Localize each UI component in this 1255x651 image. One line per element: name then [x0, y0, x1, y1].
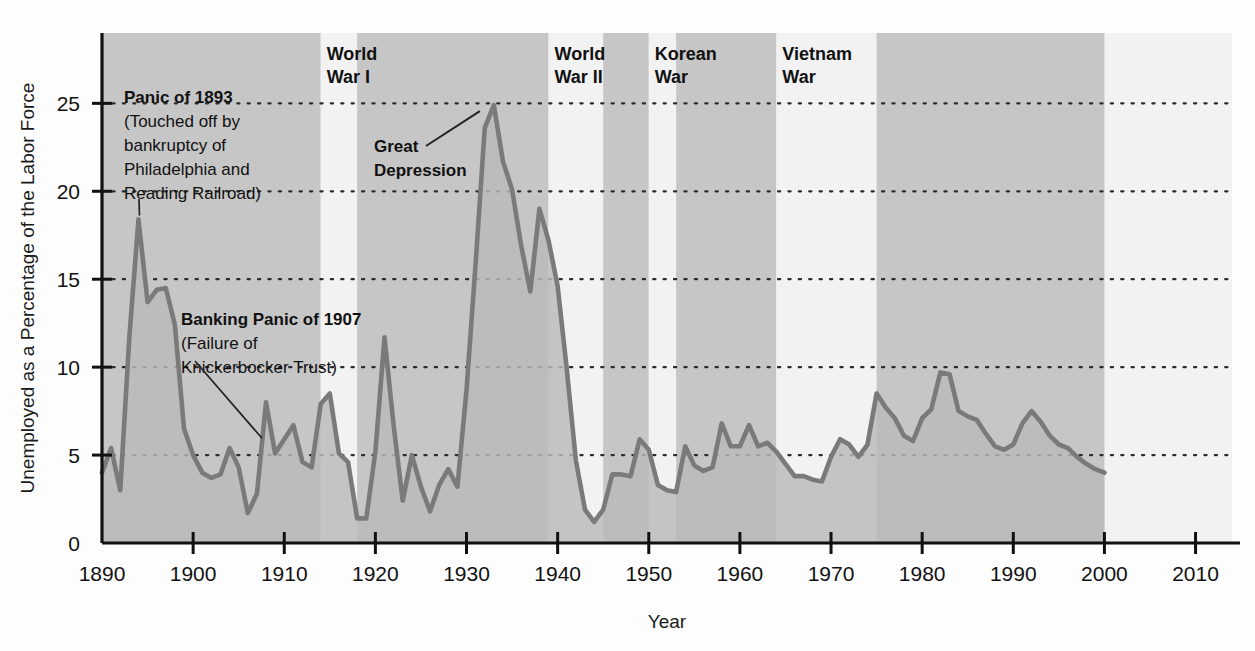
war-label-line1-3: Vietnam: [782, 44, 852, 64]
annotation-line-panic-1893-0: (Touched off by: [124, 112, 240, 131]
y-axis-title: Unemployed as a Percentage of the Labor …: [17, 83, 38, 494]
x-tick-label-1990: 1990: [990, 562, 1037, 585]
x-tick-label-1950: 1950: [625, 562, 672, 585]
annotation-title-panic-1893: Panic of 1893: [124, 88, 233, 107]
x-tick-label-1920: 1920: [352, 562, 399, 585]
war-label-line1-2: Korean: [655, 44, 717, 64]
war-label-line1-1: World: [555, 44, 606, 64]
war-label-line2-3: War: [782, 67, 815, 87]
annotation-title-banking-panic-1907: Banking Panic of 1907: [181, 310, 361, 329]
x-tick-label-1960: 1960: [717, 562, 764, 585]
y-tick-label-20: 20: [57, 180, 80, 203]
x-tick-label-1900: 1900: [170, 562, 217, 585]
annotation-title-great-depression: Great: [374, 137, 419, 156]
y-tick-label-5: 5: [68, 444, 80, 467]
war-label-line1-0: World: [327, 44, 378, 64]
x-tick-label-1890: 1890: [79, 562, 126, 585]
annotation-line-panic-1893-1: bankruptcy of: [124, 136, 226, 155]
x-axis-title: Year: [648, 611, 687, 632]
x-tick-label-2000: 2000: [1081, 562, 1128, 585]
y-tick-label-25: 25: [57, 92, 80, 115]
annotation-line-banking-panic-1907-0: (Failure of: [181, 334, 258, 353]
x-tick-label-1940: 1940: [534, 562, 581, 585]
unemployment-chart-figure: 1890190019101920193019401950196019701980…: [0, 0, 1255, 651]
x-tick-label-1980: 1980: [899, 562, 946, 585]
y-tick-label-15: 15: [57, 268, 80, 291]
annotation-line-panic-1893-3: Reading Railroad): [124, 184, 261, 203]
annotation-line-great-depression-0: Depression: [374, 161, 467, 180]
y-tick-label-0: 0: [68, 532, 80, 555]
annotation-line-banking-panic-1907-1: Knickerbocker Trust): [181, 358, 337, 377]
unemployment-area-chart: 1890190019101920193019401950196019701980…: [0, 0, 1255, 651]
x-tick-label-1910: 1910: [261, 562, 308, 585]
y-tick-label-10: 10: [57, 356, 80, 379]
x-tick-label-1970: 1970: [808, 562, 855, 585]
war-label-line2-2: War: [655, 67, 688, 87]
x-tick-label-2010: 2010: [1172, 562, 1219, 585]
war-label-line2-1: War II: [555, 67, 603, 87]
x-tick-label-1930: 1930: [443, 562, 490, 585]
annotation-line-panic-1893-2: Philadelphia and: [124, 160, 250, 179]
war-label-line2-0: War I: [327, 67, 370, 87]
